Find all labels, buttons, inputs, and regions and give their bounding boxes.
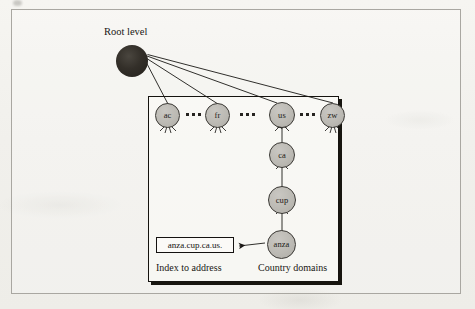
node-fr-label: fr	[215, 111, 221, 120]
ellipsis-us-zw	[300, 113, 315, 116]
node-ca-label: ca	[278, 151, 286, 160]
node-ac: ac	[155, 103, 180, 128]
address-label-box: anza.cup.ca.us.	[156, 237, 234, 253]
node-anza: anza	[267, 230, 296, 259]
caption-country-domains: Country domains	[258, 262, 327, 273]
node-anza-label: anza	[274, 240, 290, 249]
node-zw: zw	[320, 103, 345, 128]
node-cup: cup	[268, 186, 296, 214]
scan-artifact	[13, 0, 22, 6]
node-us: us	[269, 102, 295, 128]
node-fr: fr	[205, 103, 230, 128]
node-ca: ca	[269, 142, 295, 168]
root-level-label: Root level	[104, 26, 147, 37]
ellipsis-ac-fr	[186, 113, 201, 116]
node-ac-label: ac	[164, 111, 172, 120]
address-text: anza.cup.ca.us.	[168, 240, 222, 250]
root-node	[116, 45, 148, 77]
node-cup-label: cup	[276, 196, 289, 205]
node-us-label: us	[278, 111, 286, 120]
ellipsis-fr-us	[240, 113, 255, 116]
node-zw-label: zw	[327, 111, 337, 120]
caption-index-to-address: Index to address	[156, 262, 222, 273]
